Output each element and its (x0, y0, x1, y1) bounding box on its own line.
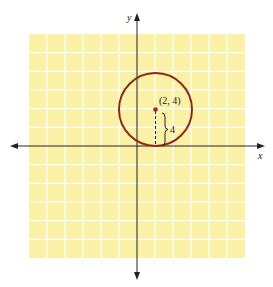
center-label: (2, 4) (159, 95, 181, 107)
x-axis-left-arrow-icon (10, 143, 18, 149)
y-axis-up-arrow-icon (134, 13, 140, 21)
x-axis-right-arrow-icon (257, 143, 265, 149)
center-point (153, 107, 158, 112)
radius-label: 4 (170, 124, 175, 135)
circle-graph: x y (2, 4) 4 (0, 0, 273, 287)
y-axis-label: y (126, 12, 132, 23)
x-axis-label: x (257, 150, 263, 161)
y-axis-down-arrow-icon (134, 272, 140, 280)
